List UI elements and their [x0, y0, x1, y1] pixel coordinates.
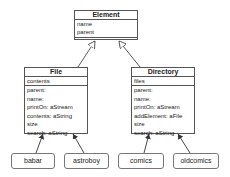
class-attributes: name parent [75, 20, 137, 38]
instance-astroboy: astroboy [64, 153, 109, 169]
class-title: Directory [132, 68, 194, 77]
method: parent: [25, 86, 87, 95]
instance-oldcomics: oldcomics [173, 153, 219, 169]
class-file: File contents parent: name: printOn: aSt… [24, 67, 88, 134]
inheritance-file-to-element [78, 41, 95, 67]
method: search: aString [132, 129, 194, 138]
attribute: contents [25, 77, 87, 85]
instance-babar: babar [11, 153, 55, 169]
class-element: Element name parent [74, 10, 138, 40]
class-attributes: contents [25, 77, 87, 86]
attribute: parent [75, 28, 137, 36]
class-methods: parent: name: printOn: aStream contents:… [25, 86, 87, 137]
method: size [25, 120, 87, 129]
class-attributes: files [132, 77, 194, 86]
class-methods: parent: name: printOn: aStream addElemen… [132, 86, 194, 137]
class-title: File [25, 68, 87, 77]
attribute: files [132, 77, 194, 85]
method: name: [132, 95, 194, 104]
method: contents: aString [25, 112, 87, 121]
class-title: Element [75, 11, 137, 20]
attribute: name [75, 20, 137, 28]
method: printOn: aStream [25, 103, 87, 112]
inheritance-directory-to-element [119, 41, 140, 67]
instance-comics: comics [118, 153, 164, 169]
method: parent: [132, 86, 194, 95]
method: size [132, 120, 194, 129]
method: printOn: aStream [132, 103, 194, 112]
method: addElement: aFile [132, 112, 194, 121]
class-directory: Directory files parent: name: printOn: a… [131, 67, 195, 134]
method: search: aString [25, 129, 87, 138]
method: name: [25, 95, 87, 104]
